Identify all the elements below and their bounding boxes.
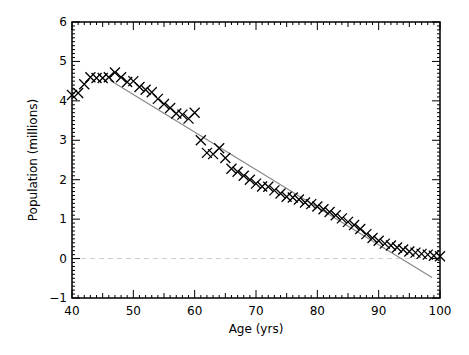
x-tick-label: 50 bbox=[126, 304, 141, 318]
data-point-x-marker bbox=[239, 171, 249, 181]
x-tick-labels: 405060708090100 bbox=[64, 304, 451, 318]
data-point-x-marker bbox=[104, 72, 114, 82]
y-axis-label: Population (millions) bbox=[26, 99, 40, 221]
y-tick-label: 6 bbox=[59, 15, 67, 29]
y-tick-label: −1 bbox=[49, 291, 67, 305]
data-point-x-marker bbox=[190, 108, 200, 118]
data-point-x-marker bbox=[153, 94, 163, 104]
x-tick-label: 100 bbox=[429, 304, 452, 318]
x-tick-label: 70 bbox=[248, 304, 263, 318]
x-axis-label: Age (yrs) bbox=[229, 322, 284, 336]
plot-frame bbox=[72, 22, 440, 298]
x-tick-label: 40 bbox=[64, 304, 79, 318]
y-tick-label: 2 bbox=[59, 173, 67, 187]
data-point-x-marker bbox=[245, 175, 255, 185]
data-point-x-marker bbox=[159, 99, 169, 109]
data-point-x-marker bbox=[110, 67, 120, 77]
axis-ticks bbox=[72, 22, 440, 298]
data-point-x-marker bbox=[220, 153, 230, 163]
x-tick-label: 90 bbox=[371, 304, 386, 318]
data-point-x-marker bbox=[79, 79, 89, 89]
population-chart: 405060708090100 −10123456 Age (yrs) Popu… bbox=[0, 0, 469, 355]
data-point-x-marker bbox=[196, 135, 206, 145]
x-tick-label: 80 bbox=[310, 304, 325, 318]
y-tick-labels: −10123456 bbox=[49, 15, 67, 305]
y-tick-label: 3 bbox=[59, 133, 67, 147]
data-markers bbox=[67, 67, 445, 261]
data-point-x-marker bbox=[355, 224, 365, 234]
y-tick-label: 0 bbox=[59, 252, 67, 266]
y-tick-label: 5 bbox=[59, 54, 67, 68]
y-tick-label: 1 bbox=[59, 212, 67, 226]
data-point-x-marker bbox=[214, 143, 224, 153]
x-tick-label: 60 bbox=[187, 304, 202, 318]
data-point-x-marker bbox=[177, 110, 187, 120]
data-point-x-marker bbox=[116, 72, 126, 82]
linear-fit-line bbox=[110, 80, 432, 277]
y-tick-label: 4 bbox=[59, 94, 67, 108]
